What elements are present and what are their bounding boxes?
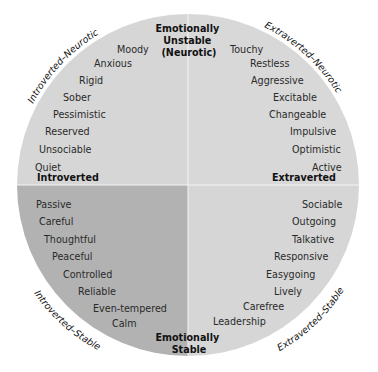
trait-pessimistic: Pessimistic [53, 109, 106, 120]
trait-reliable: Reliable [78, 286, 116, 297]
trait-excitable: Excitable [273, 92, 317, 103]
trait-active: Active [312, 162, 342, 173]
trait-responsive: Responsive [274, 251, 329, 262]
axis-left-label: Introverted [37, 172, 99, 183]
trait-outgoing: Outgoing [292, 216, 336, 227]
trait-rigid: Rigid [79, 75, 103, 86]
trait-carefree: Carefree [243, 301, 284, 312]
trait-thoughtful: Thoughtful [43, 234, 96, 245]
trait-reserved: Reserved [45, 126, 90, 137]
trait-restless: Restless [250, 58, 289, 69]
trait-aggressive: Aggressive [251, 75, 304, 86]
trait-anxious: Anxious [94, 58, 132, 69]
trait-moody: Moody [117, 44, 149, 55]
trait-sober: Sober [63, 92, 91, 103]
trait-easygoing: Easygoing [266, 269, 315, 280]
trait-touchy: Touchy [229, 44, 264, 55]
trait-optimistic: Optimistic [292, 144, 341, 155]
trait-peaceful: Peaceful [52, 251, 93, 262]
trait-passive: Passive [36, 199, 72, 210]
axis-right-label: Extraverted [272, 172, 336, 183]
axis-top-label: Emotionally Unstable (Neurotic) [155, 23, 222, 58]
personality-circle-diagram: Emotionally Unstable (Neurotic) Emotiona… [0, 0, 378, 372]
trait-lively: Lively [274, 286, 302, 297]
trait-leadership: Leadership [213, 316, 266, 327]
trait-impulsive: Impulsive [290, 126, 336, 137]
trait-sociable: Sociable [302, 199, 343, 210]
trait-careful: Careful [39, 216, 73, 227]
trait-quiet: Quiet [35, 162, 61, 173]
trait-talkative: Talkative [291, 234, 334, 245]
trait-calm: Calm [112, 318, 137, 329]
trait-controlled: Controlled [63, 269, 112, 280]
trait-unsociable: Unsociable [39, 144, 92, 155]
trait-changeable: Changeable [269, 109, 326, 120]
trait-even-tempered: Even-tempered [93, 303, 167, 314]
